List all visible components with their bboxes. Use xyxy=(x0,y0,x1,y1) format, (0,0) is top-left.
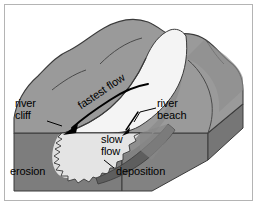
diagram-figure: river cliff river beach fastest flow slo… xyxy=(0,0,259,207)
label-slow-flow: slow flow xyxy=(101,134,123,157)
label-river-cliff: river cliff xyxy=(15,98,36,121)
label-erosion: erosion xyxy=(10,166,45,178)
label-deposition: deposition xyxy=(116,166,165,178)
label-river-beach: river beach xyxy=(157,98,186,121)
